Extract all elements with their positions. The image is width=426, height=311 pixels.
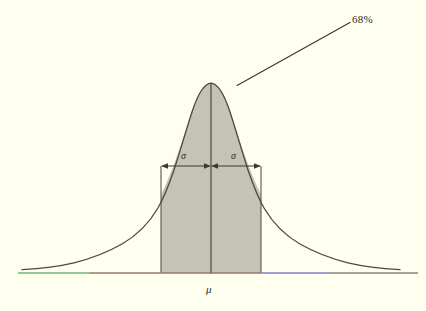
callout-leader-line [237,23,350,86]
normal-distribution-figure: 68% σ σ μ [0,0,426,311]
distribution-plot [0,0,426,311]
sigma-arrow-right-head [254,163,261,168]
sigma-label-left: σ [181,151,186,161]
sigma-arrow-left-head [161,163,168,168]
callout-label-68-percent: 68% [352,14,373,25]
sigma-label-right: σ [231,151,236,161]
mean-label-mu: μ [206,284,212,295]
